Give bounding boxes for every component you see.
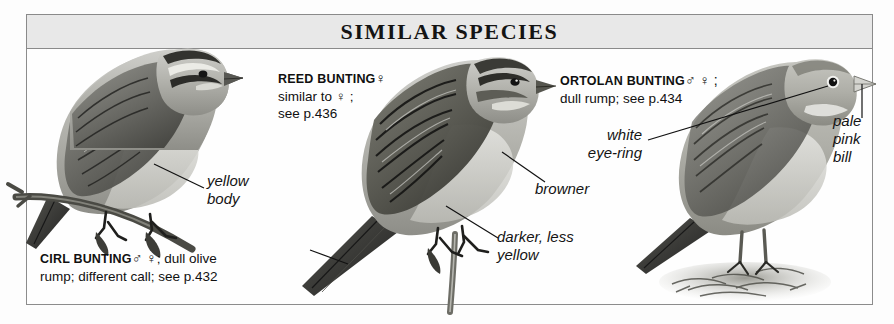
cirl-bunting-note-1: ; dull olive — [157, 251, 217, 266]
reed-bunting-label: REED BUNTING♀ similar to ♀ ; see p.436 — [278, 70, 386, 122]
ortolan-bunting-label: ORTOLAN BUNTING♂ ♀ ; dull rump; see p.43… — [560, 72, 718, 107]
annotation-yellow-body-line1: yellow — [207, 172, 249, 190]
reed-bunting-note-2: see p.436 — [278, 105, 386, 122]
annotation-palebill-line3: bill — [833, 148, 861, 166]
annotation-darker-less-yellow: darker, less yellow — [497, 228, 574, 264]
ortolan-bunting-name: ORTOLAN BUNTING — [560, 74, 685, 88]
ortolan-bunting-note-1: dull rump; see p.434 — [560, 90, 718, 107]
annotation-browner: browner — [535, 180, 589, 198]
annotation-darker-line2: yellow — [497, 246, 574, 264]
cirl-bunting-name: CIRL BUNTING — [40, 252, 132, 266]
annotation-yellow-body-line2: body — [207, 190, 249, 208]
similar-species-plate: SIMILAR SPECIES — [0, 0, 894, 324]
annotation-browner-line1: browner — [535, 180, 589, 198]
annotation-darker-line1: darker, less — [497, 228, 574, 246]
page-title: SIMILAR SPECIES — [26, 14, 873, 49]
annotation-eyering-line2: eye-ring — [570, 144, 642, 162]
cirl-bunting-note-2: rump; different call; see p.432 — [40, 268, 218, 285]
reed-bunting-name: REED BUNTING — [278, 72, 376, 86]
ortolan-bunting-symbols: ♂ ♀ ; — [685, 72, 718, 88]
cirl-bunting-symbols: ♂ ♀ — [132, 250, 157, 266]
annotation-palebill-line1: pale — [833, 112, 861, 130]
annotation-white-eye-ring: white eye-ring — [570, 126, 642, 162]
annotation-yellow-body: yellow body — [207, 172, 249, 208]
reed-bunting-note-1: similar to ♀ ; — [278, 88, 386, 105]
annotation-palebill-line2: pink — [833, 130, 861, 148]
annotation-pale-pink-bill: pale pink bill — [833, 112, 861, 166]
reed-bunting-symbols: ♀ — [376, 70, 387, 86]
annotation-eyering-line1: white — [570, 126, 642, 144]
cirl-bunting-label: CIRL BUNTING♂ ♀; dull olive rump; differ… — [40, 250, 218, 285]
